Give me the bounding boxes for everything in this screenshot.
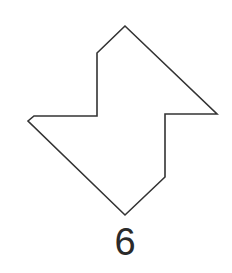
zigzag-polygon	[28, 26, 217, 215]
figure-number-label: 6	[0, 220, 232, 264]
